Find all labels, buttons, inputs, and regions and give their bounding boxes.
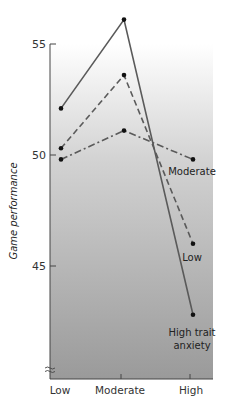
x-tick-label-moderate: Moderate [95, 384, 145, 396]
y-tick-label: 50 [32, 149, 46, 162]
data-point [122, 17, 127, 22]
y-axis: 455055 Game performance [8, 38, 56, 379]
y-axis-label: Game performance [8, 162, 19, 259]
x-tick-label-low: Low [50, 384, 71, 396]
data-point [59, 146, 64, 151]
y-tick-label: 55 [32, 38, 46, 51]
data-point [191, 313, 196, 318]
series-label: Moderate [168, 166, 216, 177]
x-tick-label-high: High [179, 384, 203, 396]
data-point [191, 157, 196, 162]
data-point [59, 157, 64, 162]
data-point [122, 128, 127, 133]
data-point [59, 106, 64, 111]
line-chart: High traitanxietyLowModerate 455055 Game… [0, 0, 228, 408]
series-label: Low [182, 252, 202, 263]
series-label: anxiety [173, 340, 210, 351]
y-tick-label: 45 [32, 260, 46, 273]
data-point [191, 242, 196, 247]
series-label: High trait [168, 327, 215, 338]
data-point [122, 73, 127, 78]
